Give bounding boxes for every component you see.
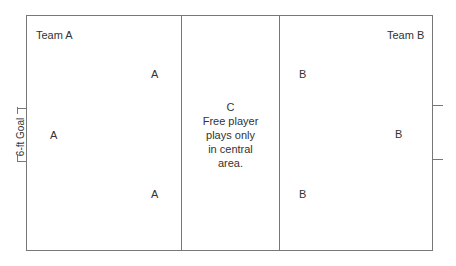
note-line-4: area.: [182, 156, 279, 170]
team-b-label: Team B: [387, 29, 424, 41]
note-line-2: plays only: [182, 128, 279, 142]
player-b-top: B: [299, 68, 306, 80]
player-a-bottom: A: [151, 188, 158, 200]
player-b-middle: B: [395, 128, 402, 140]
right-goal-top-tick: [433, 105, 443, 106]
player-b-bottom: B: [299, 188, 306, 200]
left-goal-bottom-tick: [17, 161, 26, 162]
left-goal-marker-top: [17, 107, 18, 114]
zone-divider-right: [279, 15, 280, 251]
left-goal-label: 6-ft Goal: [15, 118, 26, 156]
player-a-top: A: [151, 68, 158, 80]
team-a-label: Team A: [36, 29, 73, 41]
player-a-middle: A: [50, 129, 57, 141]
right-goal-bottom-tick: [433, 159, 443, 160]
left-goal-top-tick: [17, 108, 26, 109]
free-player-note: C Free player plays only in central area…: [182, 100, 279, 170]
note-line-3: in central: [182, 142, 279, 156]
note-line-1: Free player: [182, 114, 279, 128]
free-player-c: C: [182, 100, 279, 114]
